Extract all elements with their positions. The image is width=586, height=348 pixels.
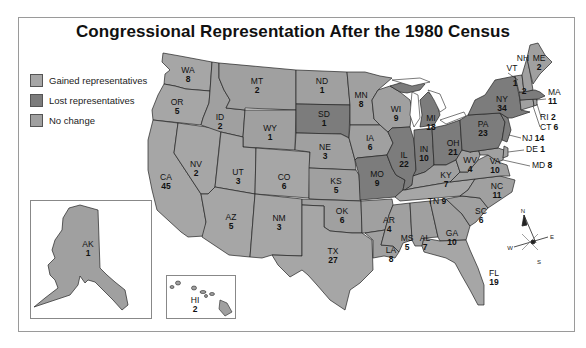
svg-text:VA10: VA10 [490, 156, 501, 175]
svg-text:TN 9: TN 9 [428, 196, 447, 206]
svg-text:RI 2: RI 2 [540, 112, 556, 122]
us-map: WA8 OR5 CA45 NV2 ID2 MT2 WY1 UT3 AZ5 CO6… [0, 0, 586, 348]
svg-text:NY34: NY34 [496, 94, 508, 113]
svg-text:TX27: TX27 [328, 246, 339, 265]
svg-text:NJ 14: NJ 14 [522, 133, 544, 143]
svg-text:MD 8: MD 8 [532, 160, 553, 170]
state-FL[interactable] [422, 238, 484, 305]
svg-text:MS5: MS5 [401, 233, 414, 252]
svg-text:NH: NH [517, 53, 529, 63]
svg-text:SC6: SC6 [475, 206, 487, 225]
svg-text:OH21: OH21 [447, 138, 460, 157]
svg-text:PA23: PA23 [478, 119, 489, 138]
svg-text:S: S [537, 259, 541, 265]
svg-text:MI18: MI18 [426, 113, 436, 132]
svg-text:LA8: LA8 [386, 245, 397, 264]
svg-text:E: E [550, 234, 554, 240]
svg-text:FL19: FL19 [489, 268, 499, 287]
state-CT[interactable] [520, 99, 534, 110]
svg-text:NC11: NC11 [491, 181, 503, 200]
svg-text:HI2: HI2 [191, 295, 200, 314]
svg-text:VT: VT [507, 63, 518, 73]
svg-text:DE 1: DE 1 [526, 144, 545, 154]
svg-text:CA45: CA45 [160, 172, 172, 191]
lake-michigan [410, 92, 420, 127]
svg-text:IL22: IL22 [399, 150, 409, 169]
compass-rose-icon: N S E W [507, 208, 554, 265]
svg-text:MA11: MA11 [548, 87, 561, 106]
state-HI[interactable] [170, 281, 232, 316]
svg-text:CT 6: CT 6 [540, 122, 559, 132]
svg-text:2: 2 [522, 86, 527, 96]
state-AK[interactable] [34, 205, 128, 310]
svg-text:W: W [507, 245, 513, 251]
svg-text:N: N [521, 208, 525, 214]
svg-text:GA10: GA10 [446, 228, 459, 247]
state-DE[interactable] [503, 146, 508, 158]
svg-text:IN10: IN10 [419, 144, 429, 163]
